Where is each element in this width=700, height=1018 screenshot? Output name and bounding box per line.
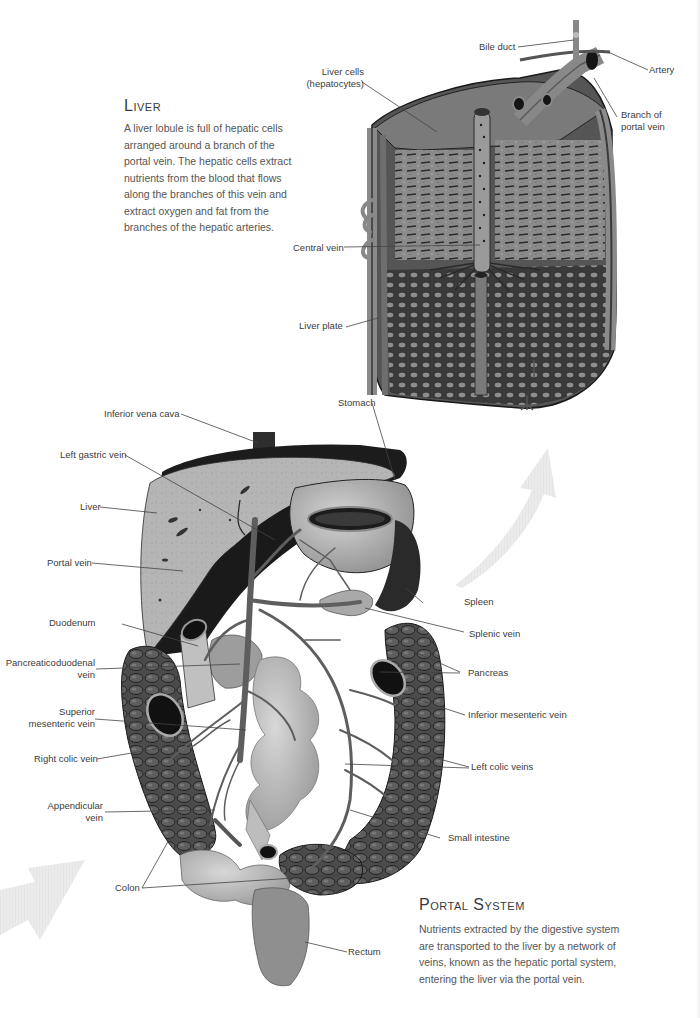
lobule-illustration bbox=[363, 20, 617, 410]
label-pancreas: Pancreas bbox=[468, 667, 508, 679]
label-left-colic-veins: Left colic veins bbox=[471, 761, 533, 773]
portal-section-title: Portal System bbox=[419, 896, 525, 914]
label-liver-plate: Liver plate bbox=[299, 320, 343, 332]
label-branch-portal-line1: Branch of bbox=[621, 109, 665, 121]
label-pancreaticoduodenal-line1: Pancreaticoduodenal bbox=[0, 657, 95, 669]
label-appendicular-vein: Appendicular vein bbox=[20, 800, 103, 824]
label-rectum: Rectum bbox=[348, 946, 381, 958]
label-duodenum: Duodenum bbox=[49, 617, 95, 629]
label-right-colic-vein: Right colic vein bbox=[34, 753, 98, 765]
label-portal-vein: Portal vein bbox=[47, 557, 92, 569]
liver-section-body: A liver lobule is full of hepatic cells … bbox=[124, 120, 302, 236]
label-branch-portal-line2: portal vein bbox=[621, 121, 665, 133]
label-inferior-mesenteric-vein: Inferior mesenteric vein bbox=[468, 709, 567, 721]
label-pancreaticoduodenal-line2: vein bbox=[0, 669, 95, 681]
label-central-vein: Central vein bbox=[293, 242, 344, 254]
label-superior-mesenteric-vein: Superior mesenteric vein bbox=[0, 706, 95, 730]
label-bile-duct: Bile duct bbox=[479, 41, 515, 53]
label-liver-cells-line1: Liver cells bbox=[296, 66, 364, 78]
portal-section-body: Nutrients extracted by the digestive sys… bbox=[419, 921, 624, 987]
label-artery: Artery bbox=[649, 64, 674, 76]
label-liver-cells-line2: (hepatocytes) bbox=[296, 78, 364, 90]
label-stomach: Stomach bbox=[338, 397, 376, 409]
label-appendicular-line2: vein bbox=[20, 812, 103, 824]
label-small-intestine: Small intestine bbox=[448, 832, 510, 844]
label-spleen: Spleen bbox=[464, 596, 494, 608]
anatomy-illustration bbox=[0, 0, 700, 1018]
label-liver: Liver bbox=[80, 501, 101, 513]
label-left-gastric-vein: Left gastric vein bbox=[60, 449, 127, 461]
liver-section-title: Liver bbox=[124, 97, 161, 115]
portal-illustration bbox=[122, 432, 445, 986]
label-colon: Colon bbox=[115, 882, 140, 894]
label-superior-mesenteric-line1: Superior bbox=[0, 706, 95, 718]
label-appendicular-line1: Appendicular bbox=[20, 800, 103, 812]
label-splenic-vein: Splenic vein bbox=[469, 628, 520, 640]
label-inferior-vena-cava: Inferior vena cava bbox=[104, 408, 180, 420]
label-pancreaticoduodenal-vein: Pancreaticoduodenal vein bbox=[0, 657, 95, 681]
label-liver-cells: Liver cells (hepatocytes) bbox=[296, 66, 364, 90]
label-branch-portal-vein: Branch of portal vein bbox=[621, 109, 665, 133]
label-superior-mesenteric-line2: mesenteric vein bbox=[0, 718, 95, 730]
